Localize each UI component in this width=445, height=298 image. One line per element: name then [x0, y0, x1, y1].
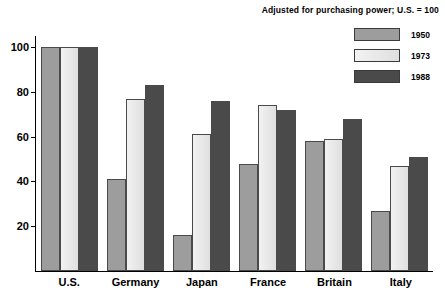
bar-germany-1950 — [107, 179, 126, 271]
x-axis-line — [35, 271, 433, 272]
bar-france-1973 — [258, 105, 277, 271]
x-axis-label-britain: Britain — [301, 273, 367, 293]
x-axis-label-italy: Italy — [368, 273, 434, 293]
y-tick-mark — [31, 137, 35, 138]
bar-group-germany — [102, 36, 168, 271]
bar-japan-1988 — [211, 101, 230, 271]
y-tick-label: 40 — [17, 175, 29, 187]
y-tick-label: 100 — [11, 41, 29, 53]
bar-italy-1973 — [390, 166, 409, 271]
y-tick-label: 80 — [17, 86, 29, 98]
bar-france-1950 — [239, 164, 258, 271]
y-tick-label: 20 — [17, 220, 29, 232]
bar-group-japan — [168, 36, 234, 271]
x-axis-label-us: U.S. — [36, 273, 102, 293]
y-tick-mark — [31, 92, 35, 93]
bar-germany-1988 — [145, 85, 164, 271]
y-tick-mark — [31, 181, 35, 182]
bar-us-1988 — [79, 47, 98, 271]
y-tick-mark — [31, 226, 35, 227]
bar-britain-1973 — [324, 139, 343, 271]
bar-group-france — [235, 36, 301, 271]
chart-title: Adjusted for purchasing power; U.S. = 10… — [262, 5, 439, 15]
bar-japan-1973 — [192, 134, 211, 271]
x-axis-label-germany: Germany — [102, 273, 168, 293]
bar-us-1973 — [60, 47, 79, 271]
bar-britain-1950 — [305, 141, 324, 271]
x-axis-label-japan: Japan — [169, 273, 235, 293]
plot-area: 20406080100 — [35, 36, 433, 271]
bar-italy-1988 — [409, 157, 428, 271]
bar-group-italy — [367, 36, 433, 271]
bar-italy-1950 — [371, 211, 390, 271]
bar-japan-1950 — [173, 235, 192, 271]
bar-france-1988 — [277, 110, 296, 271]
bar-us-1950 — [41, 47, 60, 271]
x-axis-label-france: France — [235, 273, 301, 293]
x-axis-labels: U.S.GermanyJapanFranceBritainItaly — [36, 273, 434, 293]
bar-germany-1973 — [126, 99, 145, 271]
y-tick-mark — [31, 47, 35, 48]
bar-group-britain — [301, 36, 367, 271]
bar-group-us — [36, 36, 102, 271]
bar-groups — [36, 36, 433, 271]
y-tick-label: 60 — [17, 131, 29, 143]
bar-britain-1988 — [343, 119, 362, 271]
